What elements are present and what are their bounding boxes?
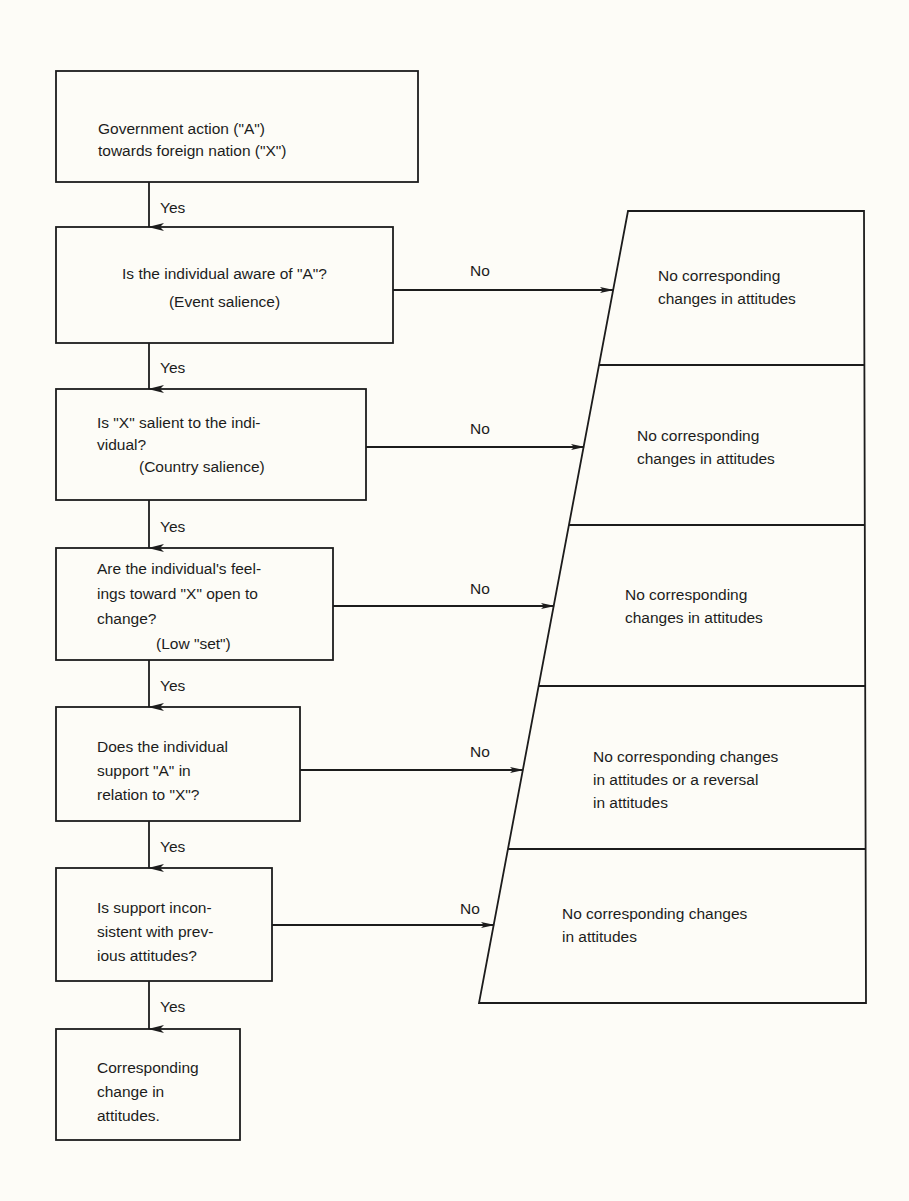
yes-label: Yes — [160, 518, 185, 536]
question-line: relation to "X"? — [97, 783, 297, 807]
yes-label: Yes — [160, 838, 185, 856]
note-country-salience: (Country salience) — [97, 456, 357, 478]
no-label: No — [470, 420, 490, 438]
start-line: towards foreign nation ("X") — [98, 140, 286, 162]
outcome-1-text: No corresponding changes in attitudes — [658, 264, 796, 310]
note-event-salience: (Event salience) — [56, 290, 393, 314]
decision-5-text: Is support incon- sistent with prev- iou… — [97, 896, 272, 968]
question-line: ious attitudes? — [97, 944, 272, 968]
yes-label: Yes — [160, 998, 185, 1016]
question-line: ings toward "X" open to — [97, 581, 327, 606]
end-line: attitudes. — [97, 1104, 237, 1128]
question-line: Is the individual aware of "A"? — [56, 257, 393, 290]
decision-3-text: Are the individual's feel- ings toward "… — [97, 556, 327, 656]
outcome-4-text: No corresponding changes in attitudes or… — [593, 745, 778, 814]
outcome-line: No corresponding changes — [562, 902, 747, 925]
yes-label: Yes — [160, 199, 185, 217]
outcome-line: No corresponding — [637, 424, 775, 447]
note-low-set: (Low "set") — [97, 631, 327, 656]
no-label: No — [470, 262, 490, 280]
question-line: Is support incon- — [97, 896, 272, 920]
question-line: Is "X" salient to the indi- — [97, 412, 357, 434]
no-label: No — [470, 580, 490, 598]
outcome-5-text: No corresponding changes in attitudes — [562, 902, 747, 948]
outcome-line: changes in attitudes — [637, 447, 775, 470]
outcome-line: No corresponding — [658, 264, 796, 287]
outcome-line: in attitudes — [562, 925, 747, 948]
outcome-line: No corresponding — [625, 583, 763, 606]
question-line: Are the individual's feel- — [97, 556, 327, 581]
outcome-line: changes in attitudes — [625, 606, 763, 629]
outcome-2-text: No corresponding changes in attitudes — [637, 424, 775, 470]
outcome-3-text: No corresponding changes in attitudes — [625, 583, 763, 629]
start-line: Government action ("A") — [98, 118, 286, 140]
end-box-text: Corresponding change in attitudes. — [97, 1056, 237, 1128]
question-line: sistent with prev- — [97, 920, 272, 944]
question-line: change? — [97, 606, 327, 631]
no-label: No — [470, 743, 490, 761]
end-line: change in — [97, 1080, 237, 1104]
outcome-line: changes in attitudes — [658, 287, 796, 310]
question-line: Does the individual — [97, 735, 297, 759]
decision-4-text: Does the individual support "A" in relat… — [97, 735, 297, 807]
outcome-line: No corresponding changes — [593, 745, 778, 768]
outcome-line: in attitudes or a reversal — [593, 768, 778, 791]
decision-2-text: Is "X" salient to the indi- vidual? (Cou… — [97, 412, 357, 478]
yes-label: Yes — [160, 359, 185, 377]
decision-1-text: Is the individual aware of "A"? (Event s… — [56, 257, 393, 314]
question-line: vidual? — [97, 434, 357, 456]
yes-label: Yes — [160, 677, 185, 695]
end-line: Corresponding — [97, 1056, 237, 1080]
no-label: No — [460, 900, 480, 918]
start-box-text: Government action ("A") towards foreign … — [98, 118, 286, 162]
outcome-line: in attitudes — [593, 791, 778, 814]
question-line: support "A" in — [97, 759, 297, 783]
